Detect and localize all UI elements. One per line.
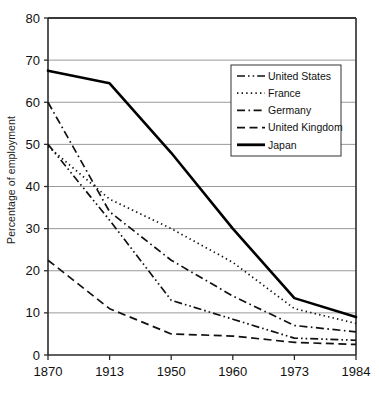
x-axis-tick-label: 1950 bbox=[157, 364, 186, 379]
gridlines-group bbox=[48, 18, 356, 313]
legend-label: Germany bbox=[268, 104, 312, 116]
y-axis-tick-label: 10 bbox=[26, 305, 40, 320]
y-axis-tick-label: 80 bbox=[26, 11, 40, 26]
x-axis-tick-label: 1984 bbox=[342, 364, 371, 379]
legend-label: Japan bbox=[268, 139, 297, 151]
x-axis-tick-labels: 187019131950196019731984 bbox=[34, 364, 371, 379]
series-line-france bbox=[48, 146, 356, 323]
y-axis-title: Percentage of employment bbox=[0, 0, 22, 360]
y-axis-tick-label: 20 bbox=[26, 263, 40, 278]
y-axis-title-text: Percentage of employment bbox=[5, 116, 17, 244]
x-axis-tick-label: 1973 bbox=[280, 364, 309, 379]
x-axis-tick-label: 1870 bbox=[34, 364, 63, 379]
y-axis-tick-labels: 01020304050607080 bbox=[26, 11, 40, 363]
y-axis-tick-label: 60 bbox=[26, 95, 40, 110]
line-chart-svg: 01020304050607080 1870191319501960197319… bbox=[0, 0, 379, 404]
y-axis-tick-label: 40 bbox=[26, 179, 40, 194]
series-line-united-states bbox=[48, 144, 356, 340]
legend-label: France bbox=[268, 87, 301, 99]
chart-container: Percentage of employment 010203040506070… bbox=[0, 0, 379, 404]
y-axis-tick-label: 30 bbox=[26, 221, 40, 236]
y-axis-tick-label: 50 bbox=[26, 137, 40, 152]
chart-legend: United StatesFranceGermanyUnited Kingdom… bbox=[231, 65, 343, 156]
y-axis-tick-label: 70 bbox=[26, 53, 40, 68]
legend-label: United Kingdom bbox=[268, 121, 343, 133]
x-axis-tick-label: 1913 bbox=[95, 364, 124, 379]
y-axis-tick-label: 0 bbox=[33, 348, 40, 363]
x-axis-tick-label: 1960 bbox=[218, 364, 247, 379]
legend-label: United States bbox=[268, 70, 331, 82]
